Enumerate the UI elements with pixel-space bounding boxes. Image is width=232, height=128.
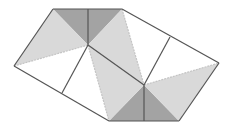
hexagon-tiling-diagram [0,0,232,128]
edge-QN [144,37,170,85]
edge-PM [62,45,88,93]
edge-CR [122,9,219,63]
edge-DL [14,66,109,121]
